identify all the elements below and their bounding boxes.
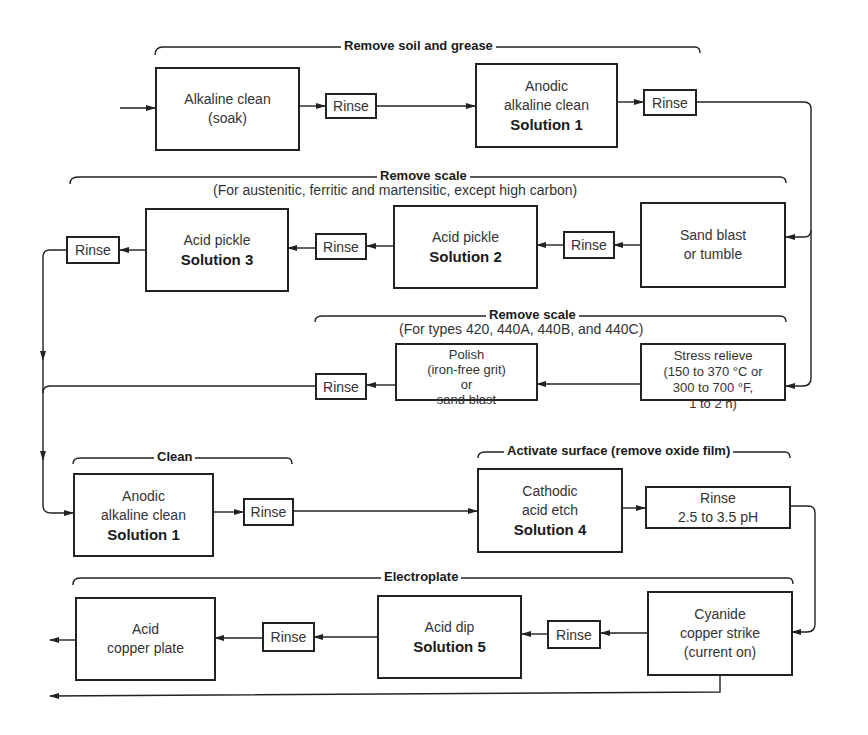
step-text: Acid dip [425,618,475,637]
solution-label: Solution 5 [413,637,486,656]
solution-label: Solution 4 [514,520,587,539]
step-cyanide-copper-strike: Cyanide copper strike (current on) [647,591,793,676]
step-text: Acid pickle [432,228,499,247]
step-rinse-4: Rinse [315,233,367,260]
step-text: (150 to 370 °C or [663,364,762,380]
step-sand-blast: Sand blast or tumble [640,202,786,288]
step-text: alkaline clean [101,506,186,525]
step-text: or [461,377,473,392]
step-text: (iron-free grit) [427,362,506,377]
step-text: sand blast [437,392,496,407]
step-rinse-9: Rinse [262,622,315,652]
step-text: Acid pickle [184,231,251,250]
group-label-soil-grease: Remove soil and grease [341,38,496,53]
step-anodic-alkaline-clean-2: Anodic alkaline clean Solution 1 [73,473,214,557]
step-text: or tumble [684,245,742,264]
step-rinse-6: Rinse [315,373,367,400]
step-text: Cathodic [522,482,577,501]
step-text: Anodic [525,77,568,96]
step-acid-copper-plate: Acid copper plate [75,597,216,681]
step-text: Rinse [700,489,736,508]
step-rinse-3: Rinse [563,231,615,259]
step-rinse-8: Rinse [547,620,601,649]
step-text: Acid [132,620,159,639]
step-stress-relieve: Stress relieve (150 to 370 °C or 300 to … [640,343,786,401]
step-text: 2.5 to 3.5 pH [678,508,758,527]
group-label-clean: Clean [154,449,195,464]
step-rinse-2: Rinse [643,89,697,116]
step-text: (soak) [208,109,247,128]
step-text: acid etch [522,501,578,520]
step-polish: Polish (iron-free grit) or sand blast [395,343,538,401]
step-text: alkaline clean [504,96,589,115]
step-acid-pickle-2: Acid pickle Solution 2 [393,205,538,289]
step-acid-dip: Acid dip Solution 5 [377,595,522,679]
step-rinse-ph: Rinse 2.5 to 3.5 pH [645,486,791,529]
step-acid-pickle-3: Acid pickle Solution 3 [145,208,289,292]
step-text: Anodic [122,487,165,506]
group-note-scale-1: (For austenitic, ferritic and martensiti… [213,182,577,198]
solution-label: Solution 2 [429,247,502,266]
step-text: Cyanide [694,605,745,624]
group-label-scale-2: Remove scale [486,307,579,322]
step-anodic-alkaline-clean-1: Anodic alkaline clean Solution 1 [475,63,618,148]
group-note-scale-2: (For types 420, 440A, 440B, and 440C) [399,321,643,337]
step-text: copper strike [680,624,760,643]
step-text: Stress relieve [674,348,753,364]
solution-label: Solution 1 [107,525,180,544]
step-alkaline-clean-soak: Alkaline clean (soak) [155,67,300,151]
group-label-electroplate: Electroplate [381,569,461,584]
step-text: Polish [449,347,484,362]
step-text: copper plate [107,639,184,658]
solution-label: Solution 3 [181,250,254,269]
group-label-scale-1: Remove scale [377,168,470,183]
step-text: (current on) [684,643,756,662]
step-rinse-1: Rinse [325,93,377,119]
solution-label: Solution 1 [510,115,583,134]
step-text: 1 to 2 h) [689,396,737,412]
step-rinse-5: Rinse [66,236,120,264]
step-cathodic-acid-etch: Cathodic acid etch Solution 4 [477,468,623,553]
group-label-activate: Activate surface (remove oxide film) [504,443,733,458]
step-text: Alkaline clean [184,90,270,109]
step-text: 300 to 700 °F, [673,380,753,396]
step-text: Sand blast [680,226,746,245]
step-rinse-7: Rinse [243,498,294,526]
